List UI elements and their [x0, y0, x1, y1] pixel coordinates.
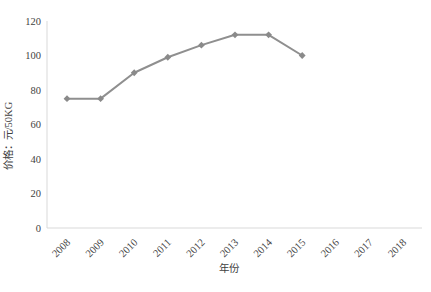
y-axis-title: 价格：元/50KG	[2, 101, 14, 170]
data-point-marker	[64, 95, 71, 102]
y-tick-label: 80	[31, 85, 42, 96]
x-tick-label: 2008	[50, 237, 73, 260]
x-tick-label: 2016	[319, 237, 342, 260]
y-tick-label: 120	[25, 16, 41, 27]
y-tick-label: 20	[31, 188, 42, 199]
y-tick-label: 60	[31, 119, 42, 130]
x-axis-title: 年份	[219, 262, 240, 274]
y-tick-label: 0	[36, 223, 41, 234]
x-tick-label: 2017	[352, 237, 375, 260]
plot-area: 0204060801001202008200920102011201220132…	[25, 16, 422, 260]
x-tick-label: 2014	[251, 236, 274, 259]
y-tick-label: 100	[25, 50, 41, 61]
x-tick-label: 2018	[386, 237, 409, 260]
line-chart-canvas: 0204060801001202008200920102011201220132…	[0, 0, 431, 292]
price-line-chart: 0204060801001202008200920102011201220132…	[0, 0, 431, 292]
x-tick-label: 2013	[218, 237, 241, 260]
data-point-marker	[164, 54, 171, 61]
price-series-line	[67, 35, 302, 99]
x-tick-label: 2011	[151, 237, 173, 259]
x-tick-label: 2015	[285, 237, 308, 260]
x-tick-label: 2009	[83, 237, 106, 260]
x-tick-label: 2010	[117, 237, 140, 260]
x-tick-label: 2012	[184, 237, 207, 260]
data-point-marker	[198, 42, 205, 49]
y-tick-label: 40	[31, 154, 42, 165]
data-point-marker	[232, 31, 239, 38]
